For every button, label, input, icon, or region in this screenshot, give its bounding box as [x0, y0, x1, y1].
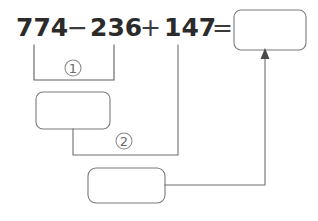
- step-1-number: 1: [69, 61, 77, 76]
- step-2-number: 2: [120, 134, 128, 149]
- operand-3-text: 147: [164, 13, 216, 42]
- final-answer-arrow-line: [165, 55, 265, 185]
- final-answer-box[interactable]: [234, 10, 306, 50]
- operator-minus-text: −: [67, 13, 88, 42]
- math-worksheet-canvas: 774 − 236 + 147 = 1 2: [0, 0, 318, 221]
- operand-2-text: 236: [90, 13, 142, 42]
- worksheet-diagram: 774 − 236 + 147 = 1 2: [0, 0, 318, 221]
- step-1-answer-box[interactable]: [36, 92, 110, 129]
- step-2-answer-box[interactable]: [88, 168, 165, 203]
- operand-1-text: 774: [16, 13, 68, 42]
- operator-plus-text: +: [140, 13, 161, 42]
- equals-sign-text: =: [212, 13, 233, 42]
